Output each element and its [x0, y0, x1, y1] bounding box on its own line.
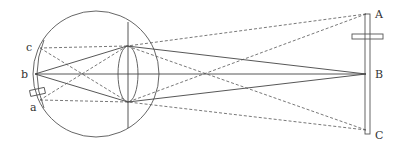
label-a: a — [30, 101, 37, 114]
ray-A-top-inner — [40, 46, 127, 100]
label-A: A — [374, 8, 384, 21]
label-c: c — [26, 41, 32, 54]
object-crossbar — [352, 34, 383, 39]
ray-B-top-outer — [127, 46, 366, 74]
label-b: b — [21, 68, 28, 81]
retina-marker-rect — [30, 87, 46, 96]
ray-B-bottom-inner — [35, 74, 128, 102]
ray-C-top-inner — [40, 46, 127, 48]
label-C: C — [375, 129, 383, 142]
eye-optics-diagram: A B C c b a — [0, 0, 405, 150]
ray-B-top-inner — [35, 46, 127, 74]
ray-A-bottom-inner — [40, 100, 128, 102]
ray-A-bottom-outer — [128, 14, 366, 102]
ray-C-bottom-outer — [128, 102, 366, 130]
label-B: B — [375, 68, 383, 81]
ray-A-top-outer — [127, 14, 366, 46]
ray-C-bottom-inner — [40, 48, 128, 102]
